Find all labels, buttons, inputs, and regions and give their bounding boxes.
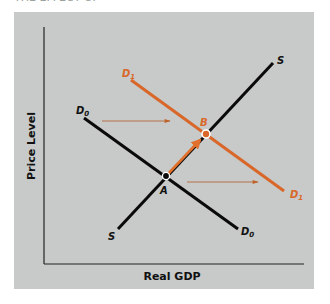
x-axis-title: Real GDP [143,270,200,283]
point-a-label: A [159,185,168,196]
equilibrium-point-a [162,172,169,179]
point-b-label: B [200,117,208,128]
supply-label-bottom: S [108,231,115,242]
aggregate-demand-supply-diagram: Price Level Real GDP S S D0 D0 D1 D1 A B [0,0,330,304]
y-axis-title: Price Level [25,112,38,180]
equilibrium-point-b [202,130,210,138]
chart-panel [14,12,314,289]
supply-label-top: S [277,55,284,66]
